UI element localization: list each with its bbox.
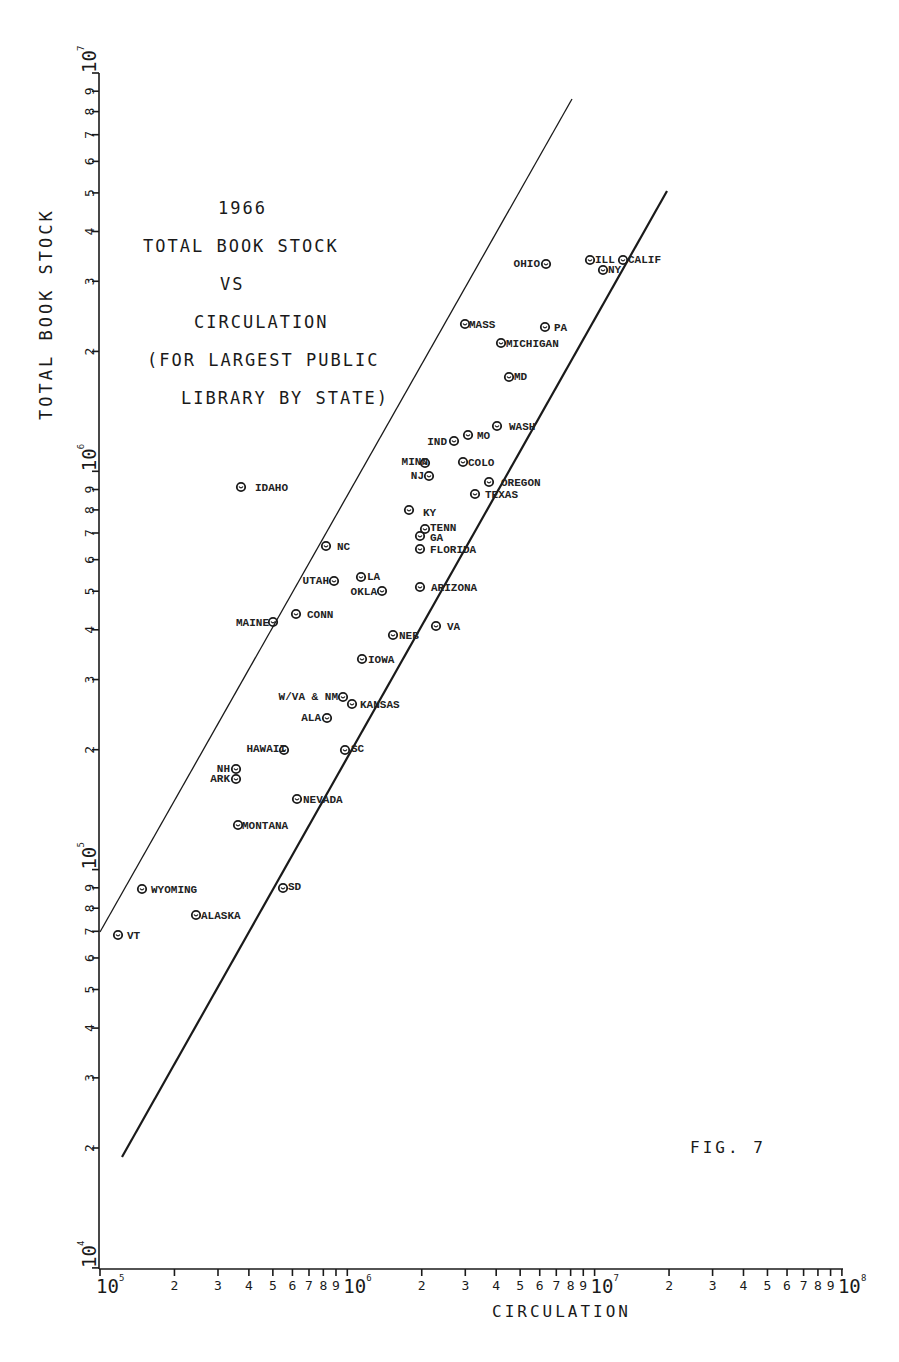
point-marker-inner <box>544 264 548 265</box>
point-marker-inner <box>234 779 238 780</box>
y-axis-label: TOTAL BOOK STOCK <box>36 208 56 420</box>
point-label: PA <box>554 322 568 334</box>
x-tick-label: 6 <box>536 1278 544 1293</box>
y-tick-label: 2 <box>82 1144 97 1152</box>
data-point: MINN <box>402 456 430 468</box>
point-marker-icon <box>464 431 472 439</box>
point-marker-icon <box>416 583 424 591</box>
x-tick-label: 9 <box>332 1278 340 1293</box>
data-point: SD <box>279 881 302 893</box>
point-marker-inner <box>140 889 144 890</box>
point-label: MD <box>514 371 528 383</box>
point-label: IDAHO <box>255 482 288 494</box>
y-tick-label: 3 <box>82 676 97 684</box>
point-label: OKLA <box>351 586 378 598</box>
point-marker-icon <box>619 256 627 264</box>
point-marker-icon <box>542 260 550 268</box>
point-marker-inner <box>325 718 329 719</box>
point-marker-icon <box>358 655 366 663</box>
y-tick-label: 7 <box>82 529 97 537</box>
point-marker-inner <box>407 510 411 511</box>
y-decade-exponent: 5 <box>76 842 86 847</box>
data-point: OREGON <box>485 477 541 489</box>
point-marker-icon <box>586 256 594 264</box>
point-marker-icon <box>339 693 347 701</box>
point-marker-icon <box>232 775 240 783</box>
point-label: ALA <box>301 712 321 724</box>
point-marker-icon <box>389 631 397 639</box>
data-point: ARK <box>210 773 240 785</box>
point-marker-inner <box>418 549 422 550</box>
point-marker-icon <box>330 577 338 585</box>
point-marker-inner <box>360 659 364 660</box>
point-marker-inner <box>294 614 298 615</box>
data-point: COLO <box>459 457 495 469</box>
point-marker-inner <box>236 825 240 826</box>
data-point: NC <box>322 541 351 553</box>
data-point: WASH <box>493 421 536 433</box>
point-marker-inner <box>271 622 275 623</box>
point-label: ALASKA <box>201 910 241 922</box>
point-label: IND <box>427 436 447 448</box>
point-marker-icon <box>432 622 440 630</box>
data-point: HAWAII <box>246 743 288 755</box>
y-tick-label: 7 <box>82 131 97 139</box>
point-marker-icon <box>138 885 146 893</box>
x-tick-label: 2 <box>665 1278 673 1293</box>
point-label: SD <box>288 881 302 893</box>
y-tick-label: 8 <box>82 108 97 116</box>
y-tick-label: 4 <box>82 227 97 235</box>
point-marker-inner <box>495 426 499 427</box>
y-tick-label: 5 <box>82 587 97 595</box>
point-label: MO <box>477 430 491 442</box>
data-point: MASS <box>461 319 496 331</box>
x-tick-label: 9 <box>827 1278 835 1293</box>
x-tick-label: 5 <box>269 1278 277 1293</box>
point-marker-inner <box>418 536 422 537</box>
x-tick-label: 4 <box>492 1278 500 1293</box>
x-tick-label: 3 <box>214 1278 222 1293</box>
point-marker-icon <box>378 587 386 595</box>
point-marker-icon <box>493 422 501 430</box>
point-label: CONN <box>307 609 333 621</box>
point-label: NEB <box>399 630 419 642</box>
y-tick-label: 8 <box>82 506 97 514</box>
point-label: WYOMING <box>151 884 198 896</box>
point-marker-inner <box>507 377 511 378</box>
point-marker-icon <box>425 472 433 480</box>
y-decade-exponent: 6 <box>76 444 86 449</box>
point-label: MONTANA <box>242 820 289 832</box>
upper-bound-line <box>100 99 572 932</box>
point-marker-inner <box>543 327 547 328</box>
point-marker-inner <box>434 626 438 627</box>
y-tick-label: 2 <box>82 746 97 754</box>
point-marker-inner <box>239 487 243 488</box>
point-marker-inner <box>391 635 395 636</box>
point-label: LA <box>367 571 381 583</box>
x-tick-label: 5 <box>516 1278 524 1293</box>
y-tick-label: 6 <box>82 158 97 166</box>
point-label: VT <box>127 930 141 942</box>
x-decade-label: 10 <box>96 1275 119 1297</box>
point-label: NEVADA <box>303 794 343 806</box>
point-marker-icon <box>497 339 505 347</box>
data-point: WYOMING <box>138 884 198 896</box>
point-marker-inner <box>461 462 465 463</box>
point-marker-icon <box>459 458 467 466</box>
point-marker-inner <box>343 750 347 751</box>
point-marker-inner <box>116 935 120 936</box>
data-point: IOWA <box>358 654 395 666</box>
data-point: MAINE <box>236 617 277 629</box>
point-label: MINN <box>402 456 428 468</box>
y-tick-label: 7 <box>82 927 97 935</box>
title-year: 1966 <box>218 198 267 218</box>
data-point: PA <box>541 322 568 334</box>
y-decade-label: 10 <box>78 847 100 870</box>
x-decade-exponent: 5 <box>119 1273 124 1283</box>
point-marker-inner <box>621 260 625 261</box>
point-label: CALIF <box>628 254 661 266</box>
y-tick-label: 5 <box>82 189 97 197</box>
data-point: NEVADA <box>293 794 343 806</box>
point-marker-icon <box>471 490 479 498</box>
x-tick-label: 7 <box>800 1278 808 1293</box>
